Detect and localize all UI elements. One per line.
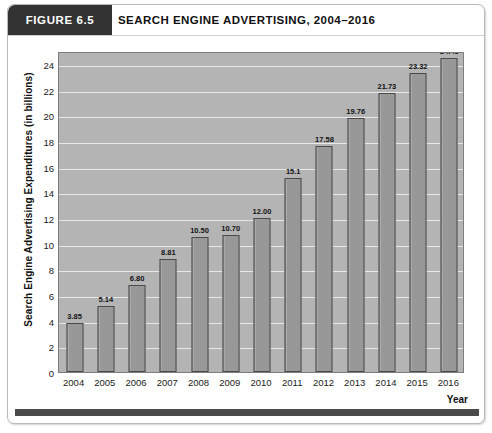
y-axis-tick: 4 (30, 316, 54, 327)
y-axis-tick: 6 (30, 290, 54, 301)
bar-value-label: 10.50 (190, 226, 209, 235)
bar-value-label: 24.45 (440, 52, 459, 56)
bar (316, 146, 333, 372)
bar-value-label: 5.14 (99, 295, 114, 304)
bar-slot: 15.1 (278, 53, 309, 372)
bar (441, 58, 458, 372)
figure-header: FIGURE 6.5 SEARCH ENGINE ADVERTISING, 20… (8, 5, 486, 35)
bar-value-label: 21.73 (378, 82, 397, 91)
y-axis-tick: 2 (30, 342, 54, 353)
bar-slot: 21.73 (371, 53, 402, 372)
bar-slot: 6.80 (121, 53, 152, 372)
bar (160, 259, 177, 372)
bar-slot: 19.76 (340, 53, 371, 372)
bar-value-label: 19.76 (346, 107, 365, 116)
y-axis-tick: 20 (30, 111, 54, 122)
x-axis-tick: 2005 (94, 377, 115, 388)
x-axis-tick: 2014 (375, 377, 396, 388)
x-axis-tick: 2015 (407, 377, 428, 388)
bar-slot: 23.32 (403, 53, 434, 372)
bar-slot: 24.45 (434, 53, 464, 372)
x-axis-tick: 2012 (313, 377, 334, 388)
x-axis-title: Year (447, 394, 468, 405)
bar-slot: 17.58 (309, 53, 340, 372)
bar-slot: 10.70 (215, 53, 246, 372)
x-axis-tick: 2016 (438, 377, 459, 388)
figure-number-tab: FIGURE 6.5 (8, 5, 112, 35)
y-axis-tick: 16 (30, 162, 54, 173)
y-axis-tick: 10 (30, 239, 54, 250)
bar-value-label: 23.32 (409, 62, 428, 71)
figure-accent-bar (15, 409, 479, 416)
y-axis-tick: 8 (30, 265, 54, 276)
bar-value-label: 6.80 (130, 274, 145, 283)
bar (285, 178, 302, 372)
bar (410, 73, 427, 372)
x-axis-tick: 2006 (125, 377, 146, 388)
x-axis-tick: 2011 (282, 377, 302, 388)
bar (129, 285, 146, 372)
bar-series: 3.855.146.808.8110.5010.7012.0015.117.58… (59, 53, 463, 372)
bar-value-label: 12.00 (253, 207, 272, 216)
bar-value-label: 10.70 (221, 224, 240, 233)
bar (97, 306, 114, 372)
chart-body: Search Engine Advertising Expenditures (… (8, 36, 486, 404)
y-axis-tick-labels: 024681012141618202224 (30, 52, 54, 373)
y-axis-tick: 0 (30, 368, 54, 379)
bar-slot: 8.81 (153, 53, 184, 372)
bar (378, 93, 395, 372)
y-axis-tick: 22 (30, 85, 54, 96)
x-axis-tick: 2008 (188, 377, 209, 388)
y-axis-tick: 24 (30, 59, 54, 70)
bar (66, 323, 83, 372)
bar (347, 118, 364, 372)
x-axis-tick: 2004 (63, 377, 84, 388)
bar-value-label: 17.58 (315, 135, 334, 144)
figure-title: SEARCH ENGINE ADVERTISING, 2004–2016 (118, 5, 375, 35)
bar (253, 218, 270, 372)
x-axis-tick: 2013 (344, 377, 365, 388)
plot-area: 3.855.146.808.8110.5010.7012.0015.117.58… (58, 52, 464, 373)
y-axis-tick: 18 (30, 136, 54, 147)
y-axis-tick: 14 (30, 188, 54, 199)
x-axis-tick: 2009 (219, 377, 240, 388)
y-axis-tick: 12 (30, 213, 54, 224)
x-axis-tick: 2010 (250, 377, 271, 388)
bar-slot: 3.85 (59, 53, 90, 372)
bar-slot: 10.50 (184, 53, 215, 372)
x-axis-tick-labels: 2004200520062007200820092010201120122013… (58, 377, 464, 393)
bar-slot: 5.14 (90, 53, 121, 372)
bar-value-label: 8.81 (161, 248, 176, 257)
bar (191, 237, 208, 372)
bar-value-label: 15.1 (286, 167, 301, 176)
figure-card: FIGURE 6.5 SEARCH ENGINE ADVERTISING, 20… (7, 4, 485, 424)
x-axis-tick: 2007 (157, 377, 178, 388)
bar (222, 235, 239, 372)
bar-value-label: 3.85 (67, 312, 82, 321)
bar-slot: 12.00 (246, 53, 277, 372)
